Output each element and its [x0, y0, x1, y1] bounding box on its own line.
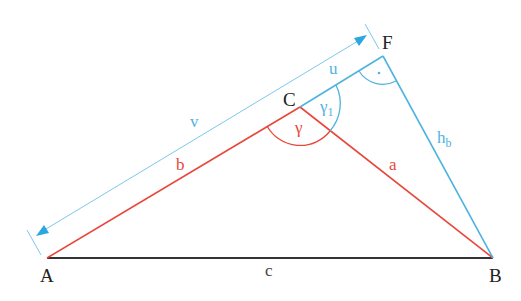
side-label-a: a	[389, 155, 397, 174]
side-label-c: c	[265, 261, 273, 280]
dimension-line-v	[46, 41, 358, 229]
arrow-head-start-icon	[36, 225, 49, 236]
right-angle-arc	[359, 71, 396, 84]
angle-label-gamma1: γ1	[319, 97, 334, 119]
triangle-diagram: A B C F c b a v u hb γ γ1	[0, 0, 521, 301]
right-angle-dot	[378, 72, 381, 75]
vertex-label-f: F	[382, 32, 393, 53]
angle-label-gamma: γ	[294, 118, 303, 137]
label-u: u	[329, 59, 338, 78]
side-b	[47, 107, 300, 258]
arrow-head-end-icon	[354, 35, 367, 46]
altitude-hb	[383, 56, 493, 258]
label-v: v	[190, 112, 199, 131]
vertex-label-c: C	[283, 89, 296, 110]
tick-mark-f	[365, 24, 379, 49]
vertex-label-b: B	[489, 265, 502, 286]
side-a	[300, 107, 493, 258]
vertex-label-a: A	[40, 265, 54, 286]
label-hb: hb	[437, 128, 452, 150]
side-label-b: b	[176, 155, 185, 174]
